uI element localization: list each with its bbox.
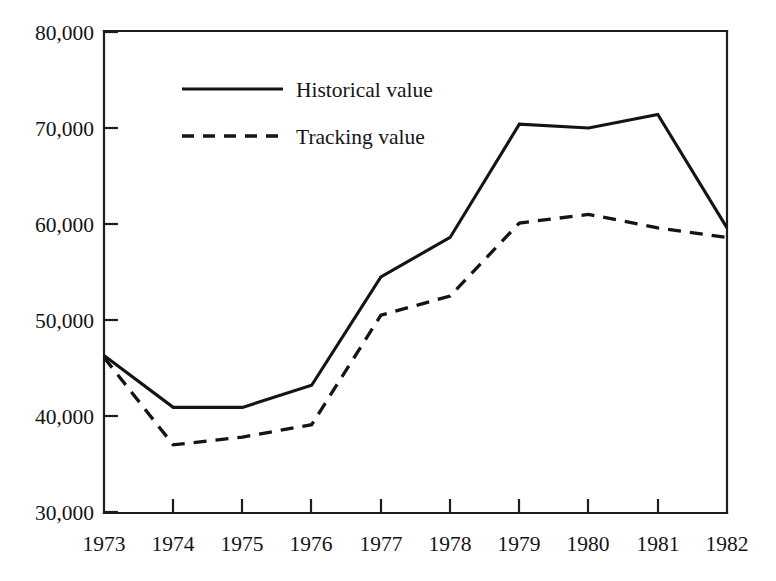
legend-label-tracking-value: Tracking value [296, 125, 425, 149]
x-tick-label-1976: 1976 [290, 532, 333, 556]
x-tick-label-1980: 1980 [567, 532, 610, 556]
y-tick-label-30000: 30,000 [35, 501, 94, 525]
x-tick-label-1974: 1974 [152, 532, 195, 556]
x-tick-label-1982: 1982 [706, 532, 749, 556]
legend-label-historical-value: Historical value [296, 78, 433, 102]
y-tick-label-70000: 70,000 [35, 117, 94, 141]
x-tick-label-1973: 1973 [83, 532, 126, 556]
chart-container: 80,000 70,000 60,000 50,000 40,000 30,00… [0, 0, 776, 581]
y-tick-label-60000: 60,000 [35, 213, 94, 237]
x-tick-label-1978: 1978 [429, 532, 472, 556]
x-tick-label-1975: 1975 [221, 532, 264, 556]
x-tick-label-1977: 1977 [360, 532, 403, 556]
x-tick-label-1981: 1981 [637, 532, 680, 556]
y-tick-label-50000: 50,000 [35, 309, 94, 333]
x-tick-label-1979: 1979 [498, 532, 541, 556]
y-tick-label-40000: 40,000 [35, 405, 94, 429]
line-chart: 80,000 70,000 60,000 50,000 40,000 30,00… [0, 0, 776, 581]
y-tick-label-80000: 80,000 [35, 21, 94, 45]
